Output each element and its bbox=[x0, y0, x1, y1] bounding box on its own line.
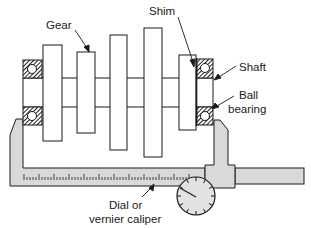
caliper-depth-bar bbox=[235, 168, 304, 184]
shaft-leader-arrow bbox=[214, 66, 236, 80]
gear-leader-arrow bbox=[75, 30, 89, 52]
gear-2 bbox=[77, 52, 95, 133]
caliper-label-line1: Dial or bbox=[109, 199, 142, 211]
gear-1 bbox=[43, 45, 62, 141]
caliper-sliding-jaw bbox=[205, 120, 235, 188]
gear-4 bbox=[144, 28, 162, 157]
shim-label: Shim bbox=[149, 5, 175, 17]
ball-bearing-right bbox=[197, 59, 213, 125]
ball-bearing-left bbox=[23, 60, 42, 125]
ball-bearing-label-line1: Ball bbox=[239, 89, 258, 101]
gear-3 bbox=[110, 35, 127, 150]
caliper-dial bbox=[177, 177, 215, 215]
gears bbox=[43, 28, 196, 157]
caliper-label-line2: vernier caliper bbox=[89, 213, 161, 225]
shaft-label: Shaft bbox=[239, 61, 267, 73]
gear-shaft-diagram: Gear Shim Shaft Ball bearing Dial or ver… bbox=[0, 0, 311, 228]
ball-bearing-label-line2: bearing bbox=[228, 103, 266, 115]
gear-label: Gear bbox=[46, 19, 72, 31]
